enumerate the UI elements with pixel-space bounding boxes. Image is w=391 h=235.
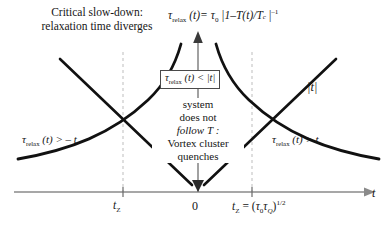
tick-right-equals: = ( — [240, 200, 256, 212]
origin-pointer-arrowhead — [192, 180, 204, 192]
top-caption-line2: relaxation time diverges — [42, 20, 153, 32]
top-caption: Critical slow-down: relaxation time dive… — [22, 6, 172, 33]
label-tau-greater-t: τrelax (t) > t — [272, 133, 319, 148]
box-tau-subscript: relax — [169, 78, 182, 85]
center-note-line-4: Vortex cluster — [167, 137, 228, 149]
left-inequality-text: (t) > – t — [40, 133, 77, 145]
x-tick-label-right: tZ = (τ0τQ)1/2 — [232, 199, 286, 216]
tick-right-exponent: 1/2 — [276, 199, 285, 207]
figure-root: Critical slow-down: relaxation time dive… — [0, 0, 391, 235]
x-tick-label-left: tZ — [113, 199, 121, 215]
boxed-inequality: τrelax (t) < |t| — [160, 70, 220, 89]
x-tick-label-zero: 0 — [192, 199, 198, 213]
x-axis-label: t — [372, 186, 375, 200]
label-tau-greater-minus-t: τrelax (t) > – t — [22, 133, 77, 148]
y-axis-arrowhead — [193, 31, 203, 43]
formula-argument: (t)= — [186, 9, 210, 21]
center-note-line-3: follow T : — [177, 124, 220, 136]
center-note-line-2: does not — [180, 111, 217, 123]
formula-bracket-open: |1–T(t)/T — [218, 9, 262, 21]
box-inequality-text: (t) < |t| — [182, 72, 216, 83]
center-note: system does not follow T : Vortex cluste… — [152, 98, 244, 163]
center-note-line-5: quenches — [178, 150, 219, 162]
formula-exponent: –1 — [271, 8, 278, 16]
label-abs-t: |t| — [307, 80, 317, 95]
right-tau-subscript: relax — [276, 140, 290, 147]
right-inequality-text: (t) > t — [290, 133, 319, 145]
center-note-line-1: system — [183, 98, 214, 110]
left-tau-subscript: relax — [26, 140, 40, 147]
tau-relax-formula: τrelax (t)= τ0 |1–T(t)/Tc |–1 — [168, 8, 278, 25]
formula-tau-subscript: relax — [172, 16, 186, 24]
top-caption-line1: Critical slow-down: — [51, 6, 143, 18]
tick-left-subscript: Z — [116, 206, 120, 214]
